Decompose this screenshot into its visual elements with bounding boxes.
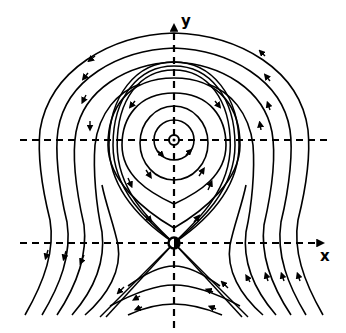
phase-portrait-diagram: y x <box>0 0 346 333</box>
center-point <box>169 135 179 145</box>
x-axis-label: x <box>320 249 330 264</box>
y-axis-label: y <box>181 14 191 29</box>
saddle-point <box>169 238 180 249</box>
phase-portrait-svg <box>0 0 346 333</box>
